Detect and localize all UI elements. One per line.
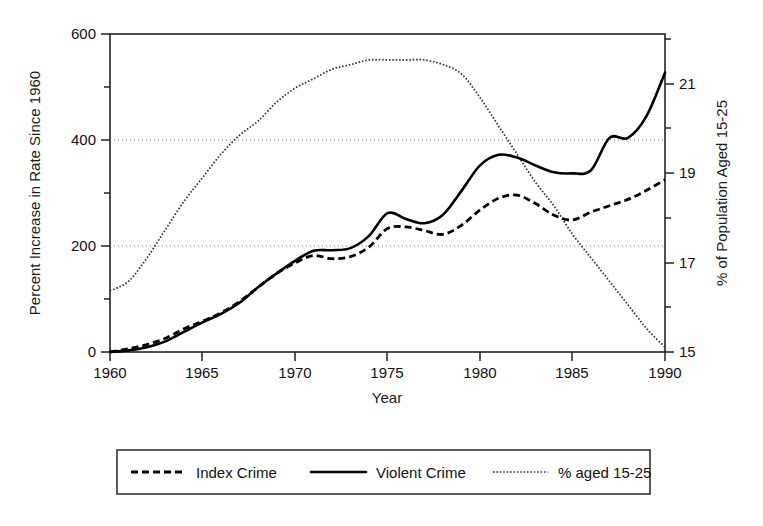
legend: Index Crime Violent Crime % aged 15-25: [117, 450, 651, 494]
legend-label-pct-aged-15-25: % aged 15-25: [558, 464, 651, 481]
ytick-label-400: 400: [71, 131, 96, 148]
xtick-label-1990: 1990: [648, 364, 681, 381]
xtick-label-1980: 1980: [463, 364, 496, 381]
x-axis-tick-labels: 1960 1965 1970 1975 1980 1985 1990: [93, 364, 681, 381]
y2tick-label-21: 21: [679, 75, 696, 92]
xtick-label-1965: 1965: [185, 364, 218, 381]
ytick-label-600: 600: [71, 25, 96, 42]
x-axis-ticks: [110, 352, 665, 361]
plot-frame: [110, 34, 665, 352]
y2tick-label-19: 19: [679, 164, 696, 181]
right-axis-tick-labels: 15 17 19 21: [679, 75, 696, 360]
xtick-label-1970: 1970: [278, 364, 311, 381]
series-group: [110, 60, 665, 352]
left-axis-tick-labels: 0 200 400 600: [71, 25, 96, 360]
y2tick-label-15: 15: [679, 343, 696, 360]
ytick-label-200: 200: [71, 237, 96, 254]
legend-label-violent-crime: Violent Crime: [376, 464, 466, 481]
ytick-label-0: 0: [88, 343, 96, 360]
xtick-label-1975: 1975: [370, 364, 403, 381]
y-axis-title: Percent Increase in Rate Since 1960: [26, 71, 43, 315]
y2-axis-title: % of Population Aged 15-25: [713, 100, 730, 286]
xtick-label-1985: 1985: [555, 364, 588, 381]
legend-label-index-crime: Index Crime: [196, 464, 277, 481]
chart-svg: 0 200 400 600 Percent Increase in Rate S…: [0, 0, 763, 526]
series-line-pct-aged-15-25: [110, 60, 665, 348]
series-line-violent-crime: [110, 73, 665, 352]
left-axis-ticks: [101, 34, 110, 352]
xtick-label-1960: 1960: [93, 364, 126, 381]
crime-rate-chart: 0 200 400 600 Percent Increase in Rate S…: [0, 0, 763, 526]
y2tick-label-17: 17: [679, 254, 696, 271]
x-axis-title: Year: [372, 389, 402, 406]
right-axis-ticks: [665, 39, 674, 352]
